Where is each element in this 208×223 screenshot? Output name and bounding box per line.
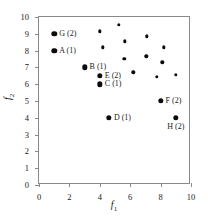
x-tick-mark: 8 [161,183,162,187]
x-tick-mark: 6 [130,183,131,187]
data-point-label-H: H (2) [167,123,184,131]
data-point [162,46,165,49]
y-tick-mark: 4 [35,118,39,119]
y-tick-label: 3 [25,130,29,139]
data-point-label-C: C (1) [105,80,122,88]
data-point [160,61,163,64]
data-point [98,30,101,33]
scatter-plot-figure: f2 012345678910 0246810 G (2)A (1)B (1)E… [0,0,208,223]
y-tick-label: 8 [25,46,29,55]
data-point-label-B: B (1) [90,63,107,71]
y-tick-label: 5 [25,97,29,106]
x-tick-mark: 4 [100,183,101,187]
x-tick-mark: 10 [191,183,192,187]
y-tick-mark: 2 [35,151,39,152]
y-tick-label: 0 [25,181,29,190]
x-axis-label: f1 [38,200,190,213]
y-tick-label: 9 [25,30,29,39]
data-point-H [173,115,178,120]
y-tick-label: 2 [25,147,29,156]
x-tick-mark: 0 [39,183,40,187]
y-tick-mark: 5 [35,101,39,102]
data-point-E [97,73,102,78]
data-point [174,73,177,76]
y-tick-label: 4 [25,114,29,123]
x-tick-mark: 2 [69,183,70,187]
data-point-label-F: F (2) [166,97,182,105]
data-point [101,46,104,49]
y-tick-label: 6 [25,80,29,89]
y-tick-mark: 1 [35,168,39,169]
y-tick-label: 10 [21,13,30,22]
data-point-label-A: A (1) [59,47,76,55]
data-point-G [51,31,56,36]
data-point [122,57,125,60]
y-tick-mark: 10 [35,17,39,18]
y-tick-mark: 3 [35,135,39,136]
y-tick-mark: 9 [35,34,39,35]
y-axis-label: f2 [3,94,16,100]
y-tick-mark: 6 [35,84,39,85]
y-tick-mark: 7 [35,67,39,68]
data-point [132,71,135,74]
data-point [117,23,120,26]
data-point-label-D: D (1) [114,114,131,122]
plot-area: 012345678910 0246810 G (2)A (1)B (1)E (2… [38,16,190,184]
data-point-A [51,48,56,53]
data-point-F [158,98,163,103]
data-point-D [106,115,111,120]
y-tick-label: 7 [25,63,29,72]
data-point [155,75,158,78]
data-point-label-G: G (2) [59,30,76,38]
y-tick-mark: 8 [35,51,39,52]
data-point [145,35,148,38]
data-point-C [97,81,102,86]
y-tick-label: 1 [25,164,29,173]
data-point [123,40,126,43]
data-point [144,55,147,58]
data-point-B [82,65,87,70]
